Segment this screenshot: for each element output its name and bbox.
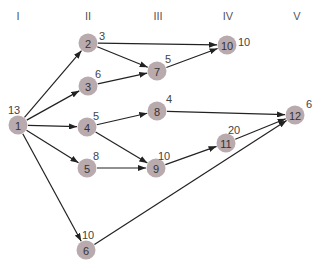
node-weight-7: 5: [165, 53, 171, 65]
network-diagram: IIIIIIIVV 113233645586107584910101011201…: [0, 0, 318, 271]
column-label: II: [85, 10, 91, 22]
edge-6-12: [94, 120, 286, 244]
edge-2-7: [97, 47, 147, 67]
column-label: III: [153, 10, 162, 22]
edge-11-12: [235, 119, 285, 139]
edge-8-12: [167, 111, 285, 114]
edge-9-11: [165, 146, 216, 164]
node-weight-12: 6: [306, 98, 312, 110]
edge-2-10: [98, 43, 217, 45]
node-weight-1: 13: [8, 104, 20, 116]
edges-layer: [0, 0, 318, 271]
edge-7-10: [166, 48, 217, 67]
node-10: 10: [218, 36, 237, 55]
node-11: 11: [217, 134, 236, 153]
node-1: 1: [9, 116, 28, 135]
node-weight-9: 10: [158, 150, 170, 162]
node-weight-10: 10: [238, 36, 250, 48]
node-weight-6: 10: [82, 229, 94, 241]
edge-3-7: [98, 73, 147, 84]
node-2: 2: [79, 34, 98, 53]
column-label: V: [293, 10, 300, 22]
column-label: IV: [223, 10, 233, 22]
edge-1-5: [26, 130, 78, 162]
node-weight-3: 6: [95, 68, 101, 80]
node-8: 8: [148, 102, 167, 121]
node-weight-11: 20: [228, 124, 240, 136]
edge-1-2: [24, 51, 81, 118]
edge-1-6: [23, 134, 81, 241]
column-label: I: [16, 10, 19, 22]
node-7: 7: [148, 62, 167, 81]
node-weight-2: 3: [99, 30, 105, 42]
edge-4-8: [97, 113, 148, 125]
node-weight-8: 4: [166, 93, 172, 105]
node-weight-4: 5: [93, 110, 99, 122]
node-6: 6: [77, 241, 96, 260]
node-12: 12: [286, 106, 305, 125]
edge-4-9: [96, 132, 148, 163]
edge-1-4: [28, 125, 77, 126]
node-weight-5: 8: [93, 150, 99, 162]
